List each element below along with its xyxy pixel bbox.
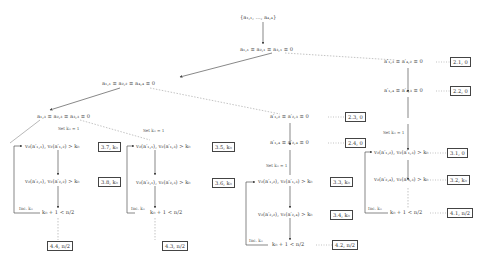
node-b2: v₂(a′₂,₁), v₂(a′₂,₃) > k₀ [136,179,190,186]
result-box-3-5: 3.5, k₀ [212,142,235,152]
result-box-3-8: 3.8, k₀ [98,177,121,187]
result-box-3-2: 3.2, k₀ [447,175,470,185]
result-box-4-4: 4.4, n/2 [47,241,73,251]
result-box-2-1: 2.1, 0 [450,57,471,67]
node-m1: a′₁,₂ ≡ a′₂,₃ ≡ 0 [270,113,309,120]
node-r2: a′₁,₄ ≡ a′₄,₃ ≡ 0 [384,87,423,94]
node-c1: v₂(a′₁,₂), v₂(a′₁,₃) > k₀ [258,178,312,185]
node-c3: k₀ + 1 < n/2 [272,241,304,248]
result-box-4-3: 4.3, n/2 [162,241,188,251]
edge-label-set-k0-b: Set k₀ = 1 [143,128,164,133]
node-r1: a′₁,₃ ≡ a′₄,₂ ≡ 0 [384,58,423,65]
edge-label-set-k0-d: Set k₀ = 1 [383,130,404,135]
result-box-3-3: 3.3, k₀ [330,177,353,187]
result-box-2-3: 2.3, 0 [345,112,366,122]
result-box-3-1: 3.1, 0 [447,148,468,158]
result-box-2-2: 2.2, 0 [450,86,471,96]
result-box-3-4: 3.4, k₀ [330,210,353,220]
node-n1: a₁,₁ ≡ a₂,₁ ≡ a₃,₁ ≡ 0 [240,46,293,53]
node-a2: v₂(a′₂,₁), v₂(a′₂,₂) > k₀ [25,178,79,185]
edge-label-inc-d: Inc. k₀ [368,206,382,211]
edge-label-inc-a: Inc. k₀ [19,206,33,211]
result-box-4-1: 4.1, n/2 [447,208,473,218]
node-d1: v₂(a′₁,₂), v₂(a′₁,₃) > k₀ [374,149,428,156]
node-n3: a₁,₃ ≡ a₂,₃ ≡ a₃,₃ ≡ 0 [37,113,90,120]
node-a3: k₀ + 1 < n/2 [42,209,74,216]
root-node: {a₁,₁, …, a₄,₄} [240,14,276,21]
edge-label-set-k0-c: Set k₀ = 1 [266,163,287,168]
node-d2: v₂(a′₂,₄), v₂(a′₃,₃) > k₀ [374,176,428,183]
result-box-2-4: 2.4, 0 [345,138,366,148]
edge-label-inc-b: Inc. k₀ [131,206,145,211]
result-box-3-7: 3.7, k₀ [98,142,121,152]
result-box-4-2: 4.2, n/2 [332,240,358,250]
edge-label-inc-c: Inc. k₀ [249,238,263,243]
node-m2: a′₁,₄ ≡ a′₂,₄ ≡ 0 [270,139,309,146]
node-b1: v₂(a′₁,₁), v₂(a′₁,₃) > k₀ [136,143,190,150]
diagram-edges [0,0,477,268]
node-b3: k₀ + 1 < n/2 [150,209,182,216]
edge-label-set-k0-a: Set k₀ = 1 [58,126,79,131]
node-a1: v₂(a′₁,₁), v₂(a′₁,₂) > k₀ [25,143,79,150]
result-box-3-6: 3.6, k₀ [212,178,235,188]
node-c2: v₂(a′₂,₂), v₂(a′₂,₄) > k₀ [258,211,312,218]
node-n2: a₁,₁ ≡ a₂,₂ ≡ a₄,₄ ≡ 0 [102,80,155,87]
node-d3: k₀ + 1 < n/2 [390,209,422,216]
